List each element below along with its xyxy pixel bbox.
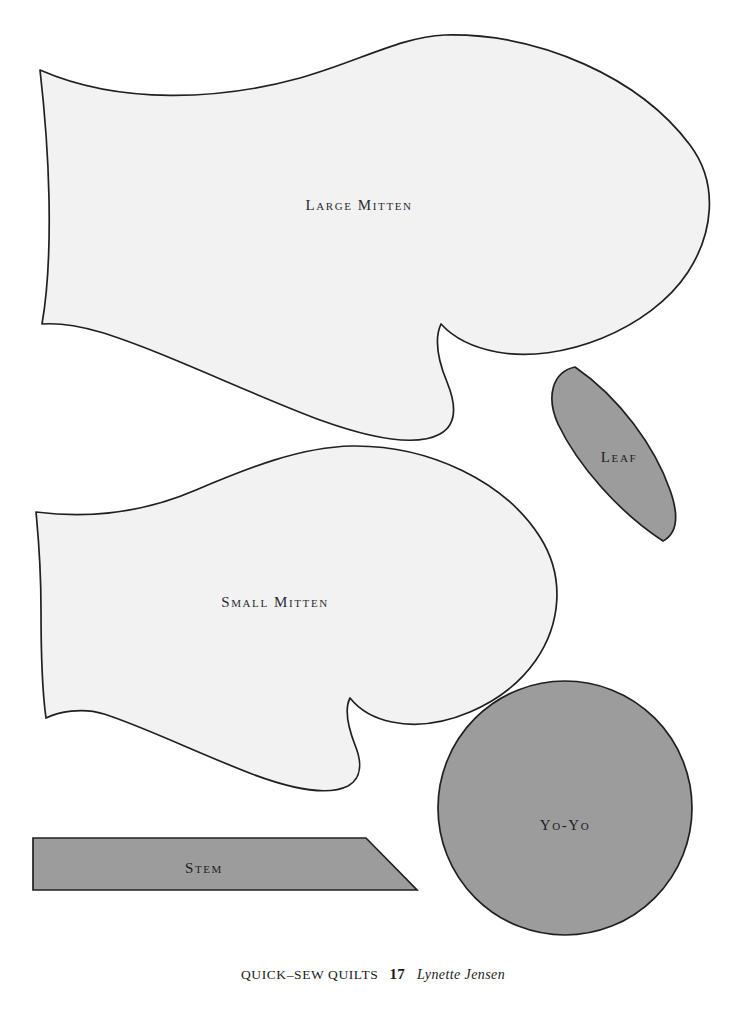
- large-mitten-shape: [40, 35, 709, 440]
- pattern-page: Large Mitten Small Mitten Leaf Yo-Yo Ste…: [0, 0, 746, 1027]
- footer-book-title: QUICK–SEW QUILTS: [241, 967, 378, 983]
- template-shapes-canvas: [0, 0, 746, 1027]
- stem-shape: [33, 838, 417, 890]
- page-footer: QUICK–SEW QUILTS 17 Lynette Jensen: [0, 966, 746, 983]
- footer-page-number: 17: [389, 966, 405, 983]
- yo-yo-shape: [438, 681, 692, 935]
- footer-author-name: Lynette Jensen: [417, 967, 505, 983]
- leaf-shape: [552, 367, 676, 541]
